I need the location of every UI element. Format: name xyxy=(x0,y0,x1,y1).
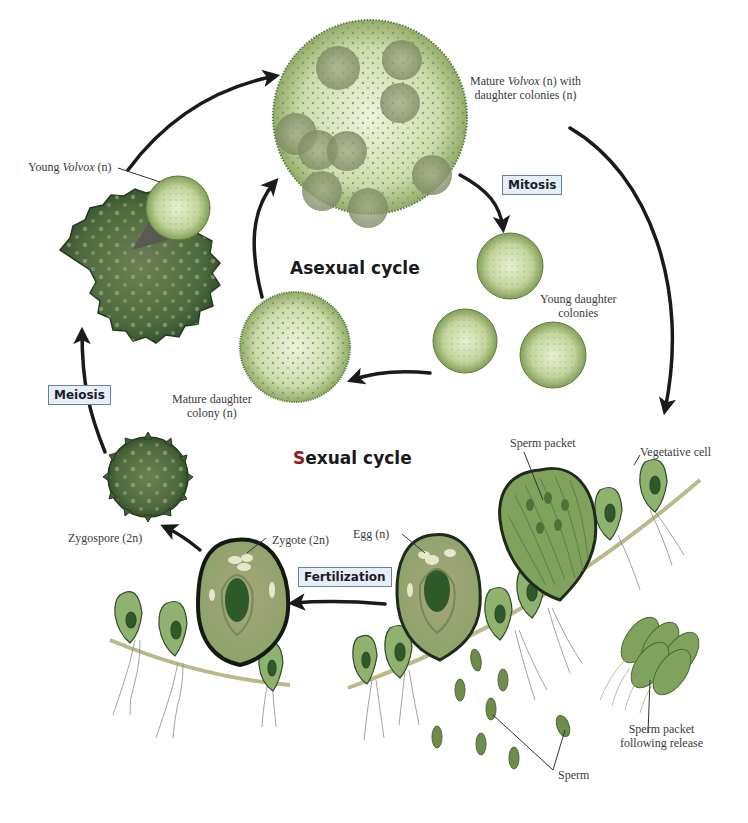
sperm-packet-label: Sperm packet xyxy=(510,436,576,450)
fertilization-label: Fertilization xyxy=(298,567,392,587)
sexual-cycle-title-rest: exual cycle xyxy=(305,448,411,468)
arrow-young-to-mature xyxy=(128,76,275,170)
asexual-cycle-title: Asexual cycle xyxy=(290,258,420,278)
zygote-label: Zygote (2n) xyxy=(272,533,329,547)
meiosis-label: Meiosis xyxy=(48,385,111,405)
zygote-cell xyxy=(198,540,288,665)
mature-daughter-colony-label: Mature daughter colony (n) xyxy=(172,392,252,420)
free-sperm-cells xyxy=(432,648,572,769)
sexual-cycle-title: Sexual cycle xyxy=(293,448,412,468)
egg-label: Egg (n) xyxy=(353,527,389,541)
volvox-life-cycle-diagram: Asexual cycle Sexual cycle Mitosis Meios… xyxy=(0,0,748,823)
young-volvox-emerging-illustration xyxy=(60,176,220,343)
arrow-zygote-to-zygospore xyxy=(165,527,200,550)
young-daughter-colonies-label: Young daughter colonies xyxy=(540,292,616,320)
arrow-fertilization xyxy=(293,602,385,604)
zygospore-illustration xyxy=(103,432,193,522)
mature-volvox-illustration xyxy=(273,20,467,228)
arrow-mature-to-young-daughters xyxy=(460,175,503,228)
sexual-cycle-title-first-letter: S xyxy=(293,448,305,468)
mitosis-label: Mitosis xyxy=(502,175,562,195)
mature-volvox-label: Mature Volvox (n) with daughter colonies… xyxy=(470,74,581,102)
sperm-packet-released-label: Sperm packet following release xyxy=(620,722,703,750)
arrow-daughters-to-mature-daughter xyxy=(352,372,430,380)
left-filament-illustration xyxy=(110,540,290,738)
sperm-packet-cell xyxy=(500,468,596,600)
sperm-label: Sperm xyxy=(558,768,589,782)
mature-daughter-colony-illustration xyxy=(240,292,350,402)
vegetative-cell-label: Vegetative cell xyxy=(640,445,711,459)
released-sperm-packet xyxy=(600,611,706,713)
arrow-mature-outer xyxy=(570,128,672,410)
zygospore-label: Zygospore (2n) xyxy=(68,531,142,545)
arrow-mature-daughter-to-mature xyxy=(254,182,275,297)
young-volvox-label: Young Volvox (n) xyxy=(28,160,111,174)
